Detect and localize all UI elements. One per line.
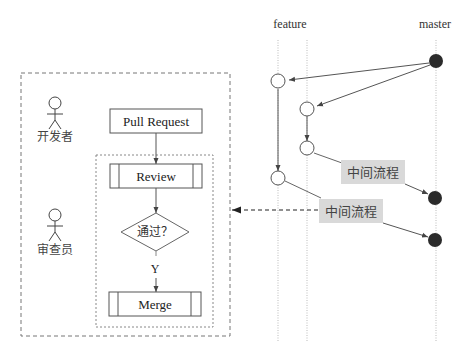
edge-label-2-to-master: [383, 223, 428, 237]
git-flow-diagram: 开发者 审查员 Pull Request Review 通过？ Y Merge …: [0, 0, 461, 357]
feature-1-commit-node-start: [271, 74, 285, 88]
feature-branch-label: feature: [273, 17, 306, 31]
edge-feature-1-to-label-2: [285, 181, 321, 198]
intermediate-process-label-2: 中间流程: [325, 204, 377, 219]
feature-2-commit-node-start: [300, 102, 314, 116]
intermediate-process-label-1: 中间流程: [347, 165, 399, 180]
review-label: Review: [136, 169, 176, 184]
yes-label: Y: [151, 262, 160, 276]
pull-request-label: Pull Request: [123, 114, 189, 129]
edge-master-to-feature-2: [317, 65, 430, 106]
master-commit-node-root: [429, 54, 443, 68]
edge-master-to-feature-1: [289, 63, 429, 80]
edge-label-1-to-master: [405, 184, 428, 194]
feature-1-commit-node-end: [271, 171, 285, 185]
developer-label: 开发者: [37, 129, 73, 144]
decision-label: 通过？: [137, 225, 173, 239]
merge-label: Merge: [138, 297, 172, 312]
feature-2-commit-node-end: [300, 141, 314, 155]
edge-feature-2-to-label-1: [314, 153, 342, 163]
developer-actor-icon: [47, 97, 63, 129]
reviewer-actor-icon: [47, 209, 63, 241]
master-commit-node-merge-1: [428, 191, 442, 205]
master-branch-label: master: [419, 17, 451, 31]
reviewer-label: 审查员: [37, 242, 73, 257]
master-commit-node-merge-2: [428, 233, 442, 247]
